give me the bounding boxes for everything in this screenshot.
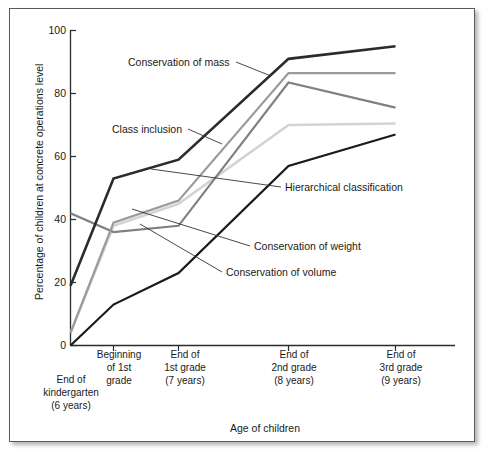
svg-text:(6 years): (6 years) <box>51 400 90 411</box>
x-category-label-end-2nd-grade: End of 2nd grade (8 years) <box>271 349 316 386</box>
y-tick-label: 40 <box>54 213 66 225</box>
x-ticks <box>114 346 396 352</box>
svg-text:End of: End of <box>387 349 416 360</box>
leader-class-inclusion <box>188 129 222 144</box>
x-category-label-end-1st-grade: End of 1st grade (7 years) <box>164 349 206 386</box>
figure-page: 0 20 40 60 80 100 Percentage of children… <box>0 0 494 465</box>
svg-text:End of: End of <box>171 349 200 360</box>
svg-text:(8 years): (8 years) <box>274 375 313 386</box>
leader-conservation-of-mass <box>236 62 271 76</box>
series-line-class-inclusion <box>71 73 396 333</box>
svg-text:(7 years): (7 years) <box>165 375 204 386</box>
line-chart: 0 20 40 60 80 100 Percentage of children… <box>0 0 494 465</box>
y-tick-labels: 0 20 40 60 80 100 <box>48 24 66 351</box>
x-category-label-end-3rd-grade: End of 3rd grade (9 years) <box>380 349 423 386</box>
annotation-conservation-of-mass: Conservation of mass <box>128 56 230 68</box>
svg-text:(9 years): (9 years) <box>381 375 420 386</box>
annotation-conservation-of-volume: Conservation of volume <box>226 266 336 278</box>
y-tick-label: 100 <box>48 24 66 36</box>
svg-text:grade: grade <box>106 375 132 386</box>
y-tick-label: 20 <box>54 276 66 288</box>
annotation-hierarchical-classification: Hierarchical classification <box>285 181 403 193</box>
series-line-hierarchical-classification <box>71 82 396 232</box>
annotation-class-inclusion: Class inclusion <box>112 123 182 135</box>
x-category-label-beginning-1st-grade: Beginning of 1st grade <box>97 349 141 386</box>
svg-text:2nd grade: 2nd grade <box>271 362 316 373</box>
annotation-conservation-of-weight: Conservation of weight <box>254 240 361 252</box>
y-tick-label: 80 <box>54 87 66 99</box>
leader-hierarchical-classification <box>151 169 281 187</box>
svg-text:3rd grade: 3rd grade <box>380 362 423 373</box>
svg-text:kindergarten: kindergarten <box>43 387 99 398</box>
y-tick-label: 0 <box>60 339 66 351</box>
svg-text:End of: End of <box>57 374 86 385</box>
svg-text:1st grade: 1st grade <box>164 362 206 373</box>
leader-conservation-of-volume <box>140 224 222 272</box>
x-category-label-kindergarten: End of kindergarten (6 years) <box>43 374 99 411</box>
svg-text:Beginning: Beginning <box>97 349 141 360</box>
svg-text:End of: End of <box>280 349 309 360</box>
x-category-labels: End of kindergarten (6 years) Beginning … <box>43 349 423 411</box>
x-axis-title: Age of children <box>230 422 300 434</box>
series-group <box>71 46 396 345</box>
y-ticks <box>71 31 77 346</box>
y-axis-title: Percentage of children at concrete opera… <box>33 64 45 300</box>
y-tick-label: 60 <box>54 150 66 162</box>
svg-text:of 1st: of 1st <box>107 362 132 373</box>
